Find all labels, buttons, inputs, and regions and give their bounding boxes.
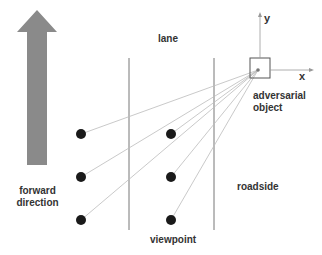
object-center-dot — [256, 68, 260, 72]
label-line: adversarial — [253, 90, 306, 102]
label-line: object — [253, 102, 306, 114]
adversarial-object-box — [250, 58, 270, 78]
viewpoint-dot — [166, 129, 176, 139]
viewpoint-dot — [76, 129, 86, 139]
forward-direction-label: forward direction — [15, 185, 60, 209]
label-line: direction — [15, 197, 60, 209]
lane-label: lane — [158, 33, 178, 45]
label-line: forward — [15, 185, 60, 197]
adversarial-object-label: adversarial object — [253, 90, 306, 114]
axis-y-label: y — [264, 12, 270, 24]
viewpoint-dots — [76, 129, 176, 225]
viewpoint-dot — [166, 215, 176, 225]
forward-arrow-icon — [17, 10, 57, 165]
sight-rays — [81, 70, 258, 220]
y-axis-arrow-icon — [258, 12, 262, 17]
viewpoint-dot — [76, 215, 86, 225]
viewpoint-label: viewpoint — [150, 234, 196, 246]
roadside-label: roadside — [237, 181, 279, 193]
viewpoint-dot — [76, 172, 86, 182]
axis-x-label: x — [299, 70, 305, 82]
x-axis-arrow-icon — [309, 68, 314, 72]
viewpoint-dot — [166, 172, 176, 182]
